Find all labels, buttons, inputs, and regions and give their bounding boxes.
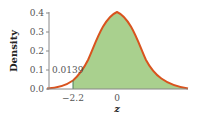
ytick-2: 0.2 <box>30 46 44 56</box>
ytick-4: 0.4 <box>30 8 45 18</box>
shaded-area <box>73 12 188 89</box>
tail-area-annotation: 0.0139 <box>52 65 84 75</box>
xtick-neg: −2.2 <box>62 93 84 103</box>
x-axis-label: z <box>113 103 120 114</box>
y-axis-label: Density <box>8 29 19 72</box>
ytick-0: 0.0 <box>30 84 45 94</box>
normal-density-chart: 0.0 0.1 0.2 0.3 0.4 −2.2 0 Density z 0.0… <box>0 0 197 122</box>
ytick-3: 0.3 <box>30 27 45 37</box>
xtick-zero: 0 <box>114 93 120 103</box>
ytick-1: 0.1 <box>30 65 44 75</box>
